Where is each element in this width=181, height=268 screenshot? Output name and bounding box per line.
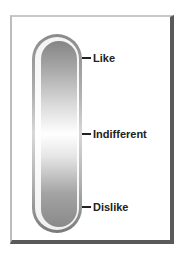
- tick-indifferent: [82, 133, 91, 135]
- label-like: Like: [93, 52, 115, 64]
- label-dislike: Dislike: [93, 201, 128, 213]
- label-indifferent: Indifferent: [93, 128, 147, 140]
- tick-like: [82, 57, 91, 59]
- thermometer-tube-gradient: [41, 41, 77, 227]
- tick-dislike: [82, 206, 91, 208]
